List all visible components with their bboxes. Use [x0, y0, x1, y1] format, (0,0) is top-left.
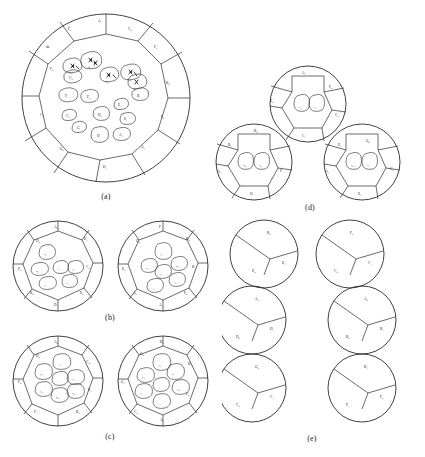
- svg-text:F2: F2: [177, 388, 180, 392]
- svg-text:G2: G2: [366, 139, 371, 144]
- svg-text:F1: F1: [44, 284, 47, 288]
- svg-text:C1: C1: [72, 268, 76, 272]
- svg-text:A1: A1: [158, 402, 162, 406]
- svg-text:C1: C1: [140, 392, 144, 396]
- svg-text:C2: C2: [390, 167, 394, 172]
- svg-text:E2: E2: [259, 164, 262, 168]
- svg-text:B1: B1: [364, 365, 368, 370]
- svg-text:E1: E1: [299, 106, 302, 110]
- svg-text:C1: C1: [368, 261, 372, 266]
- chromosome-figure: ab2: [63, 58, 82, 75]
- svg-text:C2: C2: [334, 269, 338, 274]
- panel-d-disc-bottom-right: E1 G2 A2 C2 E3 E4 G1: [324, 124, 400, 200]
- panel-e-disc-5: A2 B2 B1: [328, 286, 396, 354]
- svg-text:B2: B2: [30, 291, 34, 296]
- svg-text:C1: C1: [270, 395, 274, 400]
- panel-c-caption: (c): [90, 432, 130, 441]
- cell-label: A2: [141, 145, 146, 150]
- panel-a-caption: (a): [86, 192, 126, 201]
- panel-b-caption: (b): [90, 313, 130, 322]
- svg-text:B2: B2: [267, 231, 271, 236]
- svg-text:D2: D2: [36, 354, 41, 359]
- cell-label: F1: [65, 94, 69, 99]
- svg-text:A1: A1: [58, 363, 62, 367]
- svg-text:F2: F2: [18, 267, 22, 272]
- svg-text:G2: G2: [140, 352, 145, 357]
- svg-text:C1: C1: [160, 273, 164, 277]
- svg-text:B2: B2: [346, 335, 350, 340]
- svg-text:F1: F1: [314, 106, 317, 110]
- panel-b-disc-right: F B2 B1 F2 A1 A2 G2 E2 G1 B1 C1 F1 A1 E1: [118, 221, 208, 311]
- cell-label: B2: [166, 81, 170, 86]
- svg-text:E1: E1: [282, 261, 286, 266]
- svg-text:G1: G1: [121, 380, 126, 385]
- svg-text:E3: E3: [358, 192, 362, 197]
- svg-text:D1: D1: [40, 373, 44, 377]
- svg-text:F1: F1: [346, 403, 350, 408]
- panel-c: D2 C4 E1 F4 A2 B2 F1 A1 D1 A C1 F2 B2 E2: [8, 333, 213, 431]
- cell-label: C2: [69, 76, 73, 81]
- chromosome-figure: ab1: [81, 51, 102, 69]
- chromosome-figure: ab4: [121, 64, 141, 82]
- panel-b: D2 C2 E2 B2 D3 F2 A2 E3 D1 C C1 E1 B1 F1: [8, 218, 213, 314]
- svg-text:C1: C1: [302, 134, 306, 139]
- cell-label: F4: [50, 67, 54, 72]
- panel-b-disc-left: D2 C2 E2 B2 D3 F2 A2 E3 D1 C C1 E1 B1 F1: [13, 221, 103, 311]
- svg-text:C1: C1: [72, 378, 76, 382]
- cell-label: A3: [98, 19, 103, 24]
- svg-text:E2: E2: [158, 364, 161, 368]
- svg-text:B1: B1: [36, 270, 40, 274]
- svg-text:A1: A1: [152, 287, 156, 291]
- svg-text:B2: B2: [186, 237, 190, 242]
- panel-e-caption: (e): [292, 434, 332, 443]
- svg-text:F2: F2: [40, 390, 43, 394]
- panel-d-disc-top: A1 F2 C2 C1 E2 E1 F1: [270, 66, 346, 142]
- panel-e-disc-4: F2 C2 C1: [316, 220, 384, 288]
- cell-label: F2: [68, 27, 72, 32]
- figure-root: F4 C3 G2 D3 A2 E2 B2 F3 C4 A3 F2 ab F1 F…: [0, 0, 425, 457]
- cell-label: D3: [103, 165, 108, 170]
- panel-e: B2 E2 E1 A2 D2 D1 G2 C2 C1 F2 C2 C1: [222, 218, 422, 434]
- svg-text:C2: C2: [86, 265, 90, 270]
- svg-text:E2: E2: [80, 291, 84, 296]
- svg-text:F4: F4: [18, 380, 22, 385]
- svg-text:F2: F2: [380, 395, 384, 400]
- svg-text:E3: E3: [84, 237, 88, 242]
- svg-text:G1: G1: [367, 164, 371, 168]
- svg-text:A2: A2: [364, 297, 369, 302]
- svg-text:G1: G1: [142, 376, 146, 380]
- panel-c-disc-right: G2 G1 B1 F2 A1 C2 B2 E2 G1 B A F2 C1 A1: [118, 336, 208, 426]
- cell-label: C4: [128, 27, 132, 32]
- svg-text:F1: F1: [34, 410, 38, 415]
- cell-label: D1: [97, 134, 102, 139]
- svg-text:A1: A1: [302, 71, 307, 76]
- svg-text:C: C: [58, 268, 60, 271]
- svg-text:E1: E1: [160, 253, 163, 257]
- panel-d-disc-bottom-left: B1 B2 F1 D1 A2 D2 E2: [216, 124, 292, 200]
- svg-text:F2: F2: [329, 85, 333, 90]
- svg-text:G2: G2: [255, 365, 260, 370]
- chromosome-figure: ab3: [100, 67, 119, 84]
- cell-label: C5: [66, 114, 70, 119]
- svg-text:F1: F1: [174, 281, 177, 285]
- cell-label: A1: [119, 133, 124, 138]
- svg-text:E1: E1: [88, 388, 92, 393]
- inner-cell-group: F1 F5 C5 G C2 D2 D1 A1 E1 E3 B1: [59, 51, 149, 142]
- svg-text:C2: C2: [335, 113, 339, 118]
- svg-text:A: A: [158, 386, 160, 389]
- svg-text:C2: C2: [236, 403, 240, 408]
- svg-text:D1: D1: [250, 192, 255, 197]
- svg-text:A1: A1: [160, 418, 165, 423]
- svg-text:E1: E1: [66, 282, 69, 286]
- svg-text:D1: D1: [270, 327, 275, 332]
- svg-text:D2: D2: [243, 164, 247, 168]
- svg-text:F2: F2: [184, 291, 188, 296]
- svg-text:A2: A2: [255, 297, 260, 302]
- svg-text:F: F: [159, 225, 161, 229]
- svg-text:B1: B1: [380, 327, 384, 332]
- cell-label: F3: [154, 45, 158, 50]
- panel-e-disc-1: B2 E2 E1: [230, 220, 298, 288]
- panel-e-disc-3: G2 C2 C1: [222, 354, 286, 422]
- svg-text:E1: E1: [338, 143, 342, 148]
- svg-text:D1: D1: [44, 253, 48, 257]
